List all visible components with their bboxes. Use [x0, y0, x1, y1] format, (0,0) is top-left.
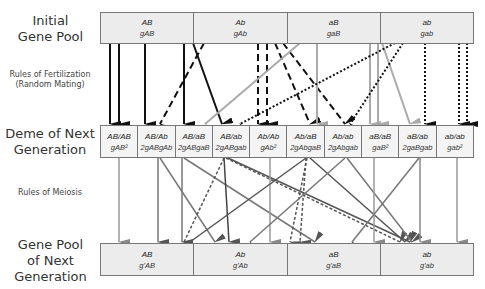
genotype-cell: AB/Ab2gABgAb [138, 126, 175, 157]
genotype-freq: gAb² [260, 142, 276, 153]
gamete-cell-AB: ABg'AB [101, 244, 194, 275]
gamete-freq: gaB [327, 28, 340, 39]
genotype-cell: AB/ABgAB² [101, 126, 138, 157]
genotype-label: Ab/ab [332, 131, 353, 142]
gamete-freq: g'ab [420, 260, 434, 271]
genotype-cell: Ab/aB2gAbgaB [287, 126, 324, 157]
genotype-cell: aB/ab2gaBgab [399, 126, 436, 157]
genotype-freq: gab² [447, 142, 462, 153]
gamete-cell-aB: aBg'aB [288, 244, 381, 275]
genotype-freq: gAB² [111, 142, 128, 153]
gamete-freq: g'Ab [233, 260, 248, 271]
gamete-freq: gAb [234, 28, 247, 39]
fertilization-arrows [110, 43, 467, 124]
gamete-cell-ab: abgab [381, 13, 473, 43]
genotype-label: AB/Ab [145, 131, 168, 142]
genotype-label: AB/ab [220, 131, 242, 142]
genotype-freq: 2gABgab [216, 142, 247, 153]
gamete-cell-ab: abg'ab [381, 244, 473, 275]
next-gene-pool: ABg'AB Abg'Ab aBg'aB abg'ab [100, 243, 474, 276]
genotype-cell: Ab/AbgAb² [250, 126, 287, 157]
genotype-freq: gaB² [372, 142, 388, 153]
genotype-label: ab/ab [445, 131, 465, 142]
gamete-label: ab [422, 17, 431, 28]
meiosis-arrows [119, 158, 457, 242]
gamete-freq: g'aB [326, 260, 341, 271]
gamete-freq: g'AB [139, 260, 155, 271]
gamete-label: Ab [235, 17, 245, 28]
genotype-cell: AB/aB2gABgaB [176, 126, 213, 157]
initial-gene-pool: ABgAB AbgAb aBgaB abgab [100, 12, 474, 44]
genotype-label: Ab/Ab [257, 131, 279, 142]
genotype-label: AB/aB [182, 131, 205, 142]
genotype-cell: AB/ab2gABgab [213, 126, 250, 157]
gamete-label: aB [329, 17, 339, 28]
gamete-label: AB [142, 249, 153, 260]
genotype-cell: aB/aBgaB² [362, 126, 399, 157]
genotype-label: AB/AB [107, 131, 131, 142]
gamete-label: Ab [235, 249, 245, 260]
gamete-cell-aB: aBgaB [288, 13, 381, 43]
genotype-freq: 2gABgaB [178, 142, 210, 153]
deme-row: AB/ABgAB² AB/Ab2gABgAb AB/aB2gABgaB AB/a… [100, 125, 474, 158]
gamete-cell-Ab: AbgAb [194, 13, 287, 43]
gamete-cell-Ab: Abg'Ab [194, 244, 287, 275]
genotype-label: aB/aB [369, 131, 391, 142]
genotype-freq: 2gaBgab [403, 142, 433, 153]
genotype-freq: 2gAbgaB [290, 142, 321, 153]
gamete-freq: gAB [140, 28, 154, 39]
gamete-cell-AB: ABgAB [101, 13, 194, 43]
genotype-cell: ab/abgab² [437, 126, 473, 157]
gamete-label: aB [329, 249, 339, 260]
genotype-label: Ab/aB [295, 131, 317, 142]
genotype-label: aB/ab [407, 131, 428, 142]
gamete-freq: gab [421, 28, 434, 39]
gamete-label: AB [142, 17, 153, 28]
gamete-label: ab [422, 249, 431, 260]
genotype-freq: 2gAbgab [328, 142, 358, 153]
genotype-freq: 2gABgAb [141, 142, 173, 153]
genotype-cell: Ab/ab2gAbgab [325, 126, 362, 157]
